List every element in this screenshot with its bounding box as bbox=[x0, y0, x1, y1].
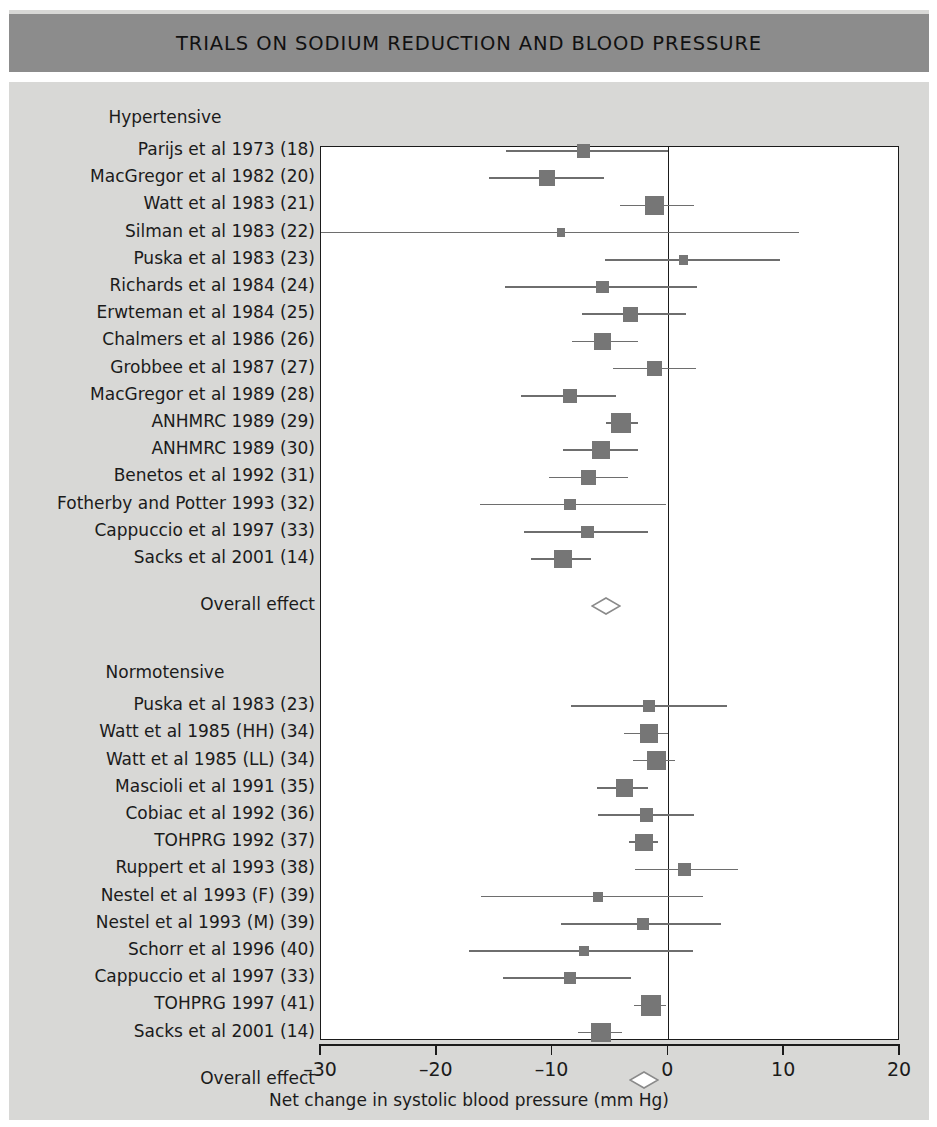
banner-divider bbox=[9, 72, 929, 82]
effect-estimate-marker bbox=[577, 144, 590, 157]
effect-estimate-marker bbox=[591, 1023, 611, 1043]
x-axis-tick bbox=[551, 1044, 553, 1055]
x-axis-tick bbox=[319, 1044, 321, 1055]
effect-estimate-marker bbox=[611, 413, 631, 433]
effect-estimate-marker bbox=[581, 526, 593, 538]
effect-estimate-marker bbox=[557, 228, 565, 236]
page-edge-top bbox=[0, 0, 937, 10]
x-axis-tick-label: 20 bbox=[887, 1058, 911, 1080]
page-edge-right bbox=[929, 0, 937, 1127]
overall-effect-diamond bbox=[591, 597, 621, 615]
plot-area bbox=[320, 146, 899, 1040]
study-label: Watt et al 1985 (LL) (34) bbox=[106, 751, 315, 768]
study-label: Silman et al 1983 (22) bbox=[125, 223, 315, 240]
effect-estimate-marker bbox=[539, 170, 555, 186]
effect-estimate-marker bbox=[554, 550, 572, 568]
study-label: Puska et al 1983 (23) bbox=[133, 250, 315, 267]
overall-effect-label: Overall effect bbox=[200, 596, 315, 613]
figure-page: TRIALS ON SODIUM REDUCTION AND BLOOD PRE… bbox=[0, 0, 937, 1127]
study-label: Richards et al 1984 (24) bbox=[110, 277, 315, 294]
effect-estimate-marker bbox=[581, 470, 596, 485]
effect-estimate-marker bbox=[678, 863, 691, 876]
effect-estimate-marker bbox=[564, 972, 575, 983]
study-label: Cappuccio et al 1997 (33) bbox=[94, 968, 315, 985]
effect-estimate-marker bbox=[637, 918, 649, 930]
study-label: Benetos et al 1992 (31) bbox=[114, 467, 315, 484]
group-heading-normotensive: Normotensive bbox=[15, 662, 315, 682]
x-axis-tick-label: –20 bbox=[419, 1058, 453, 1080]
study-label: Fotherby and Potter 1993 (32) bbox=[57, 495, 315, 512]
zero-reference-line bbox=[668, 147, 670, 1039]
study-label: Cappuccio et al 1997 (33) bbox=[94, 522, 315, 539]
study-label: Erwteman et al 1984 (25) bbox=[96, 304, 315, 321]
x-axis-tick-label: –30 bbox=[303, 1058, 337, 1080]
study-label: Sacks et al 2001 (14) bbox=[134, 549, 315, 566]
x-axis-title: Net change in systolic blood pressure (m… bbox=[9, 1090, 929, 1110]
effect-estimate-marker bbox=[563, 389, 578, 404]
x-axis-line bbox=[320, 1044, 899, 1046]
x-axis-tick bbox=[898, 1044, 900, 1055]
overall-effect-diamond bbox=[629, 1071, 659, 1089]
effect-estimate-marker bbox=[635, 834, 652, 851]
effect-estimate-marker bbox=[594, 333, 611, 350]
overall-effect-label: Overall effect bbox=[200, 1070, 315, 1087]
effect-estimate-marker bbox=[640, 724, 658, 742]
study-label: Ruppert et al 1993 (38) bbox=[115, 859, 315, 876]
effect-estimate-marker bbox=[647, 751, 666, 770]
x-axis-tick bbox=[667, 1044, 669, 1055]
study-label: Puska et al 1983 (23) bbox=[133, 696, 315, 713]
study-label: TOHPRG 1997 (41) bbox=[154, 995, 315, 1012]
study-label: Nestel et al 1993 (M) (39) bbox=[96, 914, 315, 931]
study-label: Watt et al 1983 (21) bbox=[143, 195, 315, 212]
study-label: MacGregor et al 1989 (28) bbox=[90, 386, 315, 403]
study-label: TOHPRG 1992 (37) bbox=[154, 832, 315, 849]
x-axis-tick-label: 10 bbox=[771, 1058, 795, 1080]
figure-title: TRIALS ON SODIUM REDUCTION AND BLOOD PRE… bbox=[176, 32, 762, 55]
study-label: Chalmers et al 1986 (26) bbox=[102, 331, 315, 348]
study-label: Nestel et al 1993 (F) (39) bbox=[101, 887, 315, 904]
effect-estimate-marker bbox=[579, 946, 589, 956]
x-axis-tick bbox=[782, 1044, 784, 1055]
page-edge-left bbox=[0, 0, 9, 1127]
effect-estimate-marker bbox=[623, 307, 638, 322]
effect-estimate-marker bbox=[645, 196, 664, 215]
study-label: ANHMRC 1989 (29) bbox=[151, 413, 315, 430]
figure-banner: TRIALS ON SODIUM REDUCTION AND BLOOD PRE… bbox=[9, 14, 929, 72]
effect-estimate-marker bbox=[647, 361, 662, 376]
effect-estimate-marker bbox=[596, 281, 609, 294]
group-heading-hypertensive: Hypertensive bbox=[15, 107, 315, 127]
effect-estimate-marker bbox=[564, 499, 576, 511]
forest-plot-figure: HypertensiveParijs et al 1973 (18)MacGre… bbox=[9, 82, 929, 1120]
study-label: Mascioli et al 1991 (35) bbox=[115, 778, 315, 795]
study-label: Parijs et al 1973 (18) bbox=[138, 141, 315, 158]
effect-estimate-marker bbox=[593, 892, 603, 902]
study-label: ANHMRC 1989 (30) bbox=[151, 440, 315, 457]
x-axis-tick-label: –10 bbox=[535, 1058, 569, 1080]
study-label: Grobbee et al 1987 (27) bbox=[110, 359, 315, 376]
study-label: Schorr et al 1996 (40) bbox=[128, 941, 315, 958]
effect-estimate-marker bbox=[679, 255, 689, 265]
x-axis-tick bbox=[435, 1044, 437, 1055]
effect-estimate-marker bbox=[641, 995, 661, 1015]
effect-estimate-marker bbox=[640, 808, 653, 821]
effect-estimate-marker bbox=[643, 700, 655, 712]
study-label: Cobiac et al 1992 (36) bbox=[125, 805, 315, 822]
study-label: Sacks et al 2001 (14) bbox=[134, 1023, 315, 1040]
study-label: Watt et al 1985 (HH) (34) bbox=[99, 723, 315, 740]
study-label: MacGregor et al 1982 (20) bbox=[90, 168, 315, 185]
x-axis-tick-label: 0 bbox=[661, 1058, 673, 1080]
effect-estimate-marker bbox=[592, 441, 610, 459]
page-edge-bottom bbox=[0, 1120, 937, 1127]
confidence-interval-line bbox=[605, 259, 780, 261]
effect-estimate-marker bbox=[616, 779, 634, 797]
